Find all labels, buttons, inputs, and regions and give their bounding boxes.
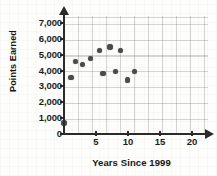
plot-gridlines [64, 16, 208, 134]
data-point [68, 75, 73, 80]
data-point [125, 77, 130, 82]
y-axis-title: Points Earned [8, 18, 18, 104]
data-point [88, 56, 93, 61]
x-axis-tick-label: 10 [116, 136, 140, 147]
x-axis-line [63, 133, 208, 135]
data-point [118, 48, 123, 53]
y-axis-tick-label: 3,000 [39, 80, 62, 91]
x-axis-title: Years Since 1999 [0, 157, 217, 168]
y-axis-arrow-icon [59, 6, 69, 15]
data-point [97, 48, 102, 53]
plot-area [64, 16, 208, 134]
y-axis-tick-label: 2,000 [39, 96, 62, 107]
x-axis-tick-label: 5 [84, 136, 108, 147]
data-point [132, 69, 137, 74]
data-point [113, 69, 118, 74]
data-point [100, 71, 105, 76]
y-axis-tick-label: 1,000 [39, 112, 62, 123]
scatter-plot-chart: 01,0002,0003,0004,0005,0006,0007,000 510… [0, 0, 217, 176]
y-axis-tick-label: 7,000 [39, 17, 62, 28]
y-axis-tick-label: 6,000 [39, 33, 62, 44]
page-background: 01,0002,0003,0004,0005,0006,0007,000 510… [0, 0, 217, 176]
y-axis-tick-label: 5,000 [39, 49, 62, 60]
x-axis-tick-label: 15 [148, 136, 172, 147]
y-axis-tick-label: 4,000 [39, 65, 62, 76]
data-point [107, 44, 112, 49]
y-axis-tick-label: 0 [57, 128, 62, 139]
x-axis-tick-label: 20 [180, 136, 204, 147]
x-axis-arrow-icon [205, 129, 214, 139]
